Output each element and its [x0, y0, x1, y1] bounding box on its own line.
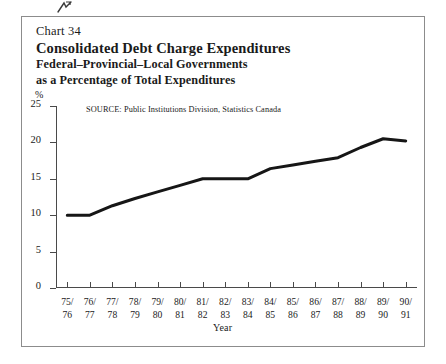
- y-tick-label: 25: [31, 98, 42, 109]
- x-tick-label: 78/79: [129, 296, 141, 321]
- x-tick-label-top: 79/: [151, 296, 163, 309]
- x-tick-label: 89/90: [377, 296, 389, 321]
- x-tick-label-bottom: 91: [400, 309, 412, 322]
- x-tick-label: 84/85: [264, 296, 276, 321]
- x-tick-label-bottom: 81: [174, 309, 186, 322]
- x-tick-label-bottom: 79: [129, 309, 141, 322]
- x-tick-label-bottom: 77: [84, 309, 96, 322]
- x-tick-label-top: 90/: [400, 296, 412, 309]
- x-tick-label-bottom: 90: [377, 309, 389, 322]
- chart-title: Consolidated Debt Charge Expenditures: [36, 39, 376, 57]
- data-line-series: [56, 100, 417, 292]
- plot-area: 0510152025 75/7676/7777/7878/7979/8080/8…: [56, 100, 417, 292]
- x-tick-label-bottom: 83: [219, 309, 231, 322]
- chart-number: Chart 34: [36, 23, 376, 39]
- x-tick-label-top: 87/: [332, 296, 344, 309]
- x-tick-label: 75/76: [61, 296, 73, 321]
- x-tick-label-top: 81/: [197, 296, 209, 309]
- chart-subtitle-line-1: Federal–Provincial–Local Governments: [36, 57, 376, 73]
- x-tick-label-top: 78/: [129, 296, 141, 309]
- chart-figure: Chart 34 Consolidated Debt Charge Expend…: [0, 0, 446, 364]
- x-tick-label-bottom: 78: [106, 309, 118, 322]
- x-tick-label: 81/82: [197, 296, 209, 321]
- x-tick-label: 80/81: [174, 296, 186, 321]
- x-tick-label: 90/91: [400, 296, 412, 321]
- scan-artifact-icon: [57, 1, 73, 14]
- x-tick-label-bottom: 86: [287, 309, 299, 322]
- x-tick-label-top: 75/: [61, 296, 73, 309]
- x-tick-label-top: 86/: [309, 296, 321, 309]
- x-tick-label-bottom: 88: [332, 309, 344, 322]
- chart-header: Chart 34 Consolidated Debt Charge Expend…: [36, 23, 376, 88]
- x-tick-label-top: 85/: [287, 296, 299, 309]
- x-tick-label-top: 77/: [106, 296, 118, 309]
- x-tick-label-bottom: 87: [309, 309, 321, 322]
- x-tick-label-top: 83/: [242, 296, 254, 309]
- x-tick-label-top: 84/: [264, 296, 276, 309]
- x-tick-label: 83/84: [242, 296, 254, 321]
- x-tick-label-top: 80/: [174, 296, 186, 309]
- x-tick-label-bottom: 84: [242, 309, 254, 322]
- y-tick-label: 10: [31, 207, 42, 218]
- y-tick-label: 0: [36, 280, 41, 291]
- chart-subtitle-line-2: as a Percentage of Total Expenditures: [36, 73, 376, 89]
- x-tick-label-bottom: 82: [197, 309, 209, 322]
- y-tick-label: 5: [36, 244, 41, 255]
- x-tick-label-bottom: 85: [264, 309, 276, 322]
- x-tick-label: 85/86: [287, 296, 299, 321]
- x-tick-label: 87/88: [332, 296, 344, 321]
- x-tick-label: 77/78: [106, 296, 118, 321]
- x-tick-label-bottom: 80: [151, 309, 163, 322]
- x-tick-label-top: 88/: [354, 296, 366, 309]
- x-axis-title: Year: [213, 322, 232, 333]
- x-tick-label-top: 76/: [84, 296, 96, 309]
- x-tick-label-top: 89/: [377, 296, 389, 309]
- debt-charge-line: [67, 139, 405, 215]
- x-tick-label-bottom: 76: [61, 309, 73, 322]
- x-tick-label: 88/89: [354, 296, 366, 321]
- y-tick-label: 15: [31, 171, 42, 182]
- y-tick-label: 20: [31, 134, 42, 145]
- x-tick-label: 82/83: [219, 296, 231, 321]
- x-tick-label: 76/77: [84, 296, 96, 321]
- x-tick-label: 86/87: [309, 296, 321, 321]
- x-tick-label: 79/80: [151, 296, 163, 321]
- x-tick-label-top: 82/: [219, 296, 231, 309]
- x-tick-label-bottom: 89: [354, 309, 366, 322]
